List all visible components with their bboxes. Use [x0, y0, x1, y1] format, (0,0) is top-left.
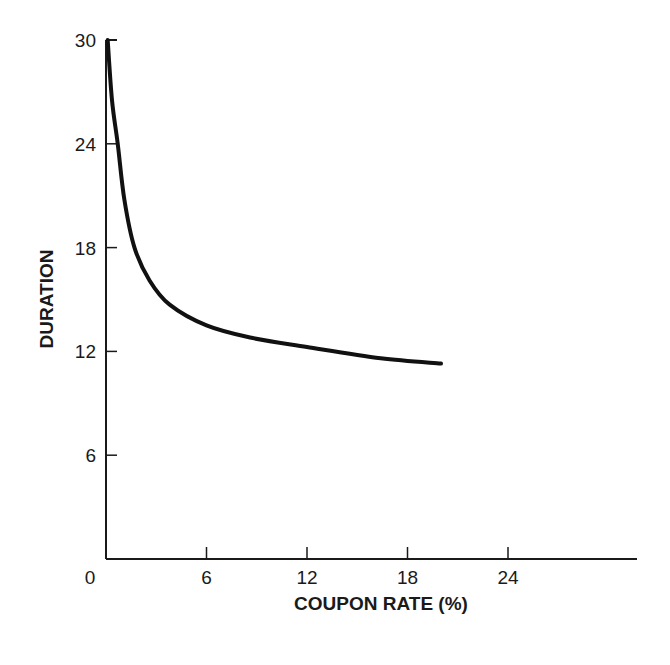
- y-tick-label: 18: [75, 238, 96, 259]
- x-tick-label: 24: [497, 567, 519, 588]
- y-axis-title: DURATION: [36, 250, 57, 349]
- y-tick-label: 24: [75, 134, 97, 155]
- x-tick-label: 18: [397, 567, 418, 588]
- x-tick-label: 12: [296, 567, 317, 588]
- duration-curve: [108, 40, 441, 364]
- x-ticks: 06121824: [85, 547, 519, 588]
- duration-coupon-chart: 612182430 06121824 COUPON RATE (%) DURAT…: [0, 0, 670, 665]
- y-tick-label: 6: [85, 445, 96, 466]
- axes: [106, 40, 637, 559]
- x-axis-title: COUPON RATE (%): [294, 593, 468, 614]
- y-tick-label: 12: [75, 341, 96, 362]
- x-tick-label: 0: [85, 567, 96, 588]
- x-tick-label: 6: [201, 567, 212, 588]
- y-tick-label: 30: [75, 30, 96, 51]
